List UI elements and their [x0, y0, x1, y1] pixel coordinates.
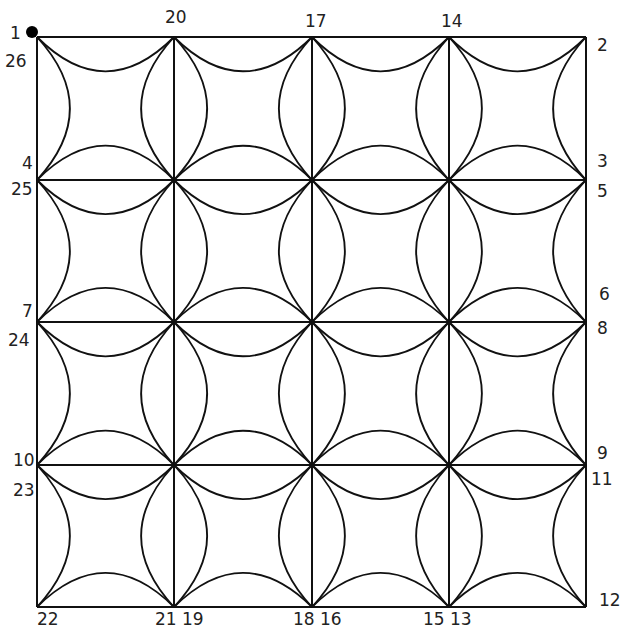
point-label: 12 [599, 592, 621, 609]
point-label: 5 [597, 183, 608, 200]
point-label: 24 [8, 332, 30, 349]
point-label: 3 [597, 153, 608, 170]
point-label: 17 [305, 13, 327, 30]
point-label: 1 [10, 25, 21, 42]
start-point-marker [26, 26, 38, 38]
point-label: 23 [13, 482, 35, 499]
point-label: 18 16 [293, 611, 342, 628]
point-label: 15 13 [423, 611, 472, 628]
point-label: 2 [597, 37, 608, 54]
point-label: 25 [11, 181, 33, 198]
point-label: 20 [165, 9, 187, 26]
point-label: 9 [597, 445, 608, 462]
point-label: 22 [37, 611, 59, 628]
point-label: 6 [599, 286, 610, 303]
point-label: 4 [22, 155, 33, 172]
point-label: 26 [5, 53, 27, 70]
point-label: 8 [597, 320, 608, 337]
point-label: 14 [441, 13, 463, 30]
point-label: 7 [22, 303, 33, 320]
point-label: 11 [591, 471, 613, 488]
point-label: 21 19 [155, 611, 204, 628]
point-label: 10 [13, 452, 35, 469]
